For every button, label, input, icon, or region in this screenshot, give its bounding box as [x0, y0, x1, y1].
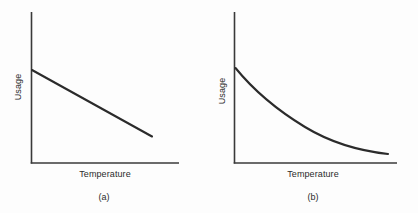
x-axis-title-b: Temperature	[268, 169, 358, 179]
data-series-curve-b	[236, 68, 389, 154]
x-axis-title-a: Temperature	[60, 169, 150, 179]
plot-area-b	[209, 0, 418, 213]
panel-caption-a: (a)	[79, 192, 129, 202]
y-axis-title-b: Usage	[217, 65, 227, 117]
chart-panel-a: Usage Temperature (a)	[0, 0, 209, 213]
data-series-line-a	[32, 70, 152, 137]
chart-panel-b: Usage Temperature (b)	[209, 0, 418, 213]
y-axis-title-a: Usage	[13, 61, 23, 113]
figure-two-panel-usage-vs-temperature: Usage Temperature (a) Usage Temperature …	[0, 0, 418, 213]
plot-area-a	[0, 0, 209, 213]
panel-caption-b: (b)	[288, 192, 338, 202]
